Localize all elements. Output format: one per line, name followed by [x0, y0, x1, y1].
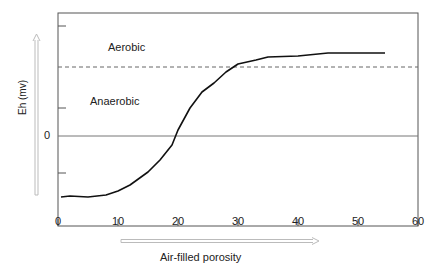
x-axis-label: Air-filled porosity	[160, 251, 241, 263]
x-tick-label: 0	[55, 215, 61, 227]
eh-curve	[61, 53, 385, 197]
x-tick-label: 20	[172, 215, 184, 227]
chart-canvas	[0, 0, 437, 274]
aerobic-label: Aerobic	[108, 41, 145, 53]
x-tick-label: 10	[112, 215, 124, 227]
y-ticks	[58, 26, 66, 173]
y-direction-arrow	[33, 34, 40, 195]
x-direction-arrow	[121, 238, 319, 245]
anaerobic-label: Anaerobic	[90, 95, 140, 107]
y-zero-label: 0	[44, 129, 50, 141]
x-tick-label: 40	[292, 215, 304, 227]
x-tick-label: 50	[352, 215, 364, 227]
x-tick-label: 60	[412, 215, 424, 227]
x-tick-label: 30	[232, 215, 244, 227]
y-axis-label: Eh (mv)	[17, 68, 28, 128]
